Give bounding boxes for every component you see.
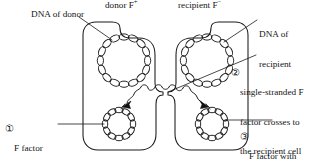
callout-recipient-dna-line1: DNA of bbox=[259, 30, 291, 40]
header-donor-charge: + bbox=[134, 0, 138, 5]
note-1-number: ① bbox=[5, 124, 14, 134]
note-3: ③ F factor with complementary strand bei… bbox=[240, 112, 306, 165]
note-3-line1: F factor with bbox=[249, 152, 306, 162]
header-donor: donor F+ bbox=[105, 1, 138, 11]
single-stranded-dna-bridge bbox=[127, 85, 204, 105]
header-recipient-charge: − bbox=[218, 0, 222, 5]
callout-donor-dna: DNA of donor bbox=[31, 10, 84, 20]
donor-cell-outline bbox=[83, 22, 163, 150]
donor-chromosomal-dna-ring bbox=[97, 34, 151, 88]
donor-f-factor-plasmid bbox=[102, 107, 135, 140]
header-recipient-text: recipient F bbox=[178, 0, 218, 10]
conjugation-diagram: donor F+ recipient F− DNA of donor DNA o… bbox=[0, 0, 331, 165]
recipient-chromosomal-dna-ring bbox=[180, 34, 234, 88]
transfer-arrows bbox=[122, 101, 209, 109]
note-3-body: F factor with complementary strand being… bbox=[249, 132, 306, 165]
note-1-body: F factor unwinding and being replicated … bbox=[14, 124, 69, 165]
transfer-arrow-left bbox=[122, 101, 131, 109]
note-2-number: ② bbox=[231, 68, 240, 78]
note-1-line1: F factor bbox=[14, 144, 69, 154]
note-2-line1: single-stranded F bbox=[240, 88, 304, 98]
cell-outlines bbox=[83, 22, 248, 150]
plasmid-unwinding-tails bbox=[121, 104, 210, 109]
recipient-f-factor-plasmid bbox=[195, 107, 228, 140]
transfer-arrow-right bbox=[200, 101, 209, 109]
note-1: ① F factor unwinding and being replicate… bbox=[5, 104, 69, 165]
note-3-number: ③ bbox=[240, 132, 249, 142]
header-recipient: recipient F− bbox=[178, 1, 221, 11]
header-donor-text: donor F bbox=[105, 0, 134, 10]
